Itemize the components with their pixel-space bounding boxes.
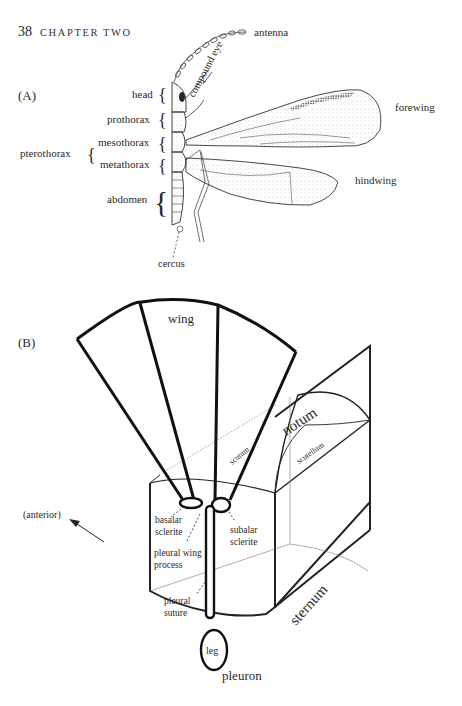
figure-insect-anatomy: (A) antenna compound eye — [0, 0, 462, 706]
anterior-arrow-icon — [69, 519, 104, 542]
book-page: 38CHAPTER TWO (A) — [0, 0, 462, 706]
thorax-block-drawing — [150, 346, 370, 616]
label-pleural-suture-2: suture — [164, 608, 187, 618]
svg-text:{: { — [158, 156, 167, 176]
forewing-drawing — [186, 90, 381, 147]
label-compound-eye: compound eye — [186, 39, 225, 99]
hindwing-drawing — [186, 158, 338, 205]
svg-text:{: { — [87, 145, 96, 165]
label-scutellum: scutellum — [295, 440, 326, 466]
label-pleural-suture-1: pleural — [164, 596, 191, 606]
panel-a-label: (A) — [18, 88, 36, 103]
label-cercus: cercus — [158, 258, 185, 269]
sclerites-drawing — [180, 498, 230, 670]
svg-text:{: { — [158, 85, 167, 105]
label-abdomen: abdomen — [107, 193, 148, 205]
svg-text:{: { — [154, 185, 168, 218]
panel-b: (B) — [18, 300, 370, 683]
label-metathorax: metathorax — [100, 158, 150, 170]
label-pleural-wing-process-1: pleural wing — [154, 548, 202, 558]
label-head: head — [132, 88, 153, 100]
structure-labels: basalar sclerite subalar sclerite pleura… — [154, 440, 326, 618]
label-antenna: antenna — [254, 26, 288, 38]
svg-text:{: { — [158, 134, 167, 154]
label-pleural-wing-process-2: process — [154, 560, 183, 570]
label-subalar-sclerite-1: subalar — [230, 525, 258, 535]
panel-a: (A) antenna compound eye — [18, 26, 435, 269]
svg-text:{: { — [158, 110, 167, 130]
label-basalar-sclerite-1: basalar — [155, 515, 183, 525]
label-mesothorax: mesothorax — [98, 136, 150, 148]
label-pleuron: pleuron — [222, 668, 262, 683]
label-forewing: forewing — [395, 101, 435, 113]
label-hindwing: hindwing — [355, 174, 397, 186]
label-anterior: (anterior) — [23, 509, 61, 521]
label-pterothorax: pterothorax — [20, 147, 71, 159]
panel-b-label: (B) — [18, 335, 35, 350]
label-prothorax: prothorax — [107, 113, 150, 125]
label-leg: leg — [206, 645, 218, 656]
label-wing: wing — [168, 311, 195, 326]
wing-fan-drawing — [77, 300, 296, 500]
label-subalar-sclerite-2: sclerite — [230, 537, 257, 547]
scutum-dotted-line — [164, 405, 276, 472]
cercus-leader — [173, 232, 179, 258]
label-basalar-sclerite-2: sclerite — [155, 527, 182, 537]
